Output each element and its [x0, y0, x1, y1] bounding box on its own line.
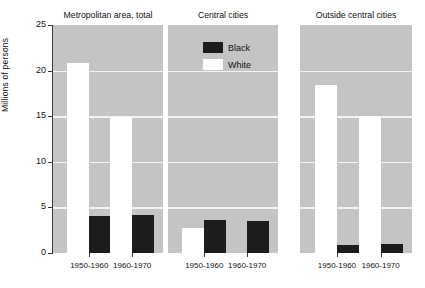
bar-black [337, 245, 359, 253]
y-axis-tick-label: 20 [16, 66, 46, 75]
y-axis-tick [48, 207, 52, 208]
legend: BlackWhite [203, 42, 251, 76]
gridline [168, 116, 278, 118]
bar-white [110, 117, 132, 253]
legend-swatch-white [203, 59, 223, 70]
gridline [300, 71, 412, 73]
y-axis-tick [48, 253, 52, 254]
bar-black [204, 220, 226, 253]
x-axis-tick-label: 1960-1970 [355, 261, 407, 270]
x-axis-tick [132, 253, 133, 257]
y-axis-tick-label: 15 [16, 111, 46, 120]
y-axis-tick [48, 25, 52, 26]
x-axis-tick [381, 253, 382, 257]
chart-panel: Metropolitan area, total [53, 25, 163, 253]
gridline [168, 207, 278, 209]
y-axis-tick [48, 71, 52, 72]
legend-item: White [203, 59, 251, 70]
panel-title: Central cities [168, 10, 278, 20]
y-axis-tick-label: 10 [16, 157, 46, 166]
y-axis-title: Millions of persons [0, 98, 10, 112]
x-axis-tick [89, 253, 90, 257]
x-axis-tick-label: 1960-1970 [221, 261, 273, 270]
x-axis-tick [337, 253, 338, 257]
legend-item: Black [203, 42, 251, 53]
y-axis-tick-label: 0 [16, 248, 46, 257]
y-axis-tick [48, 116, 52, 117]
bar-black [89, 216, 111, 253]
y-axis-tick-label: 5 [16, 202, 46, 211]
legend-swatch-black [203, 42, 223, 53]
bar-white [359, 116, 381, 253]
bar-white [315, 85, 337, 253]
y-axis-tick-label: 25 [16, 20, 46, 29]
x-axis-tick [247, 253, 248, 257]
y-axis-tick [48, 162, 52, 163]
bar-black [132, 215, 154, 253]
chart-panel: Outside central cities [300, 25, 412, 253]
bar-black [381, 244, 403, 253]
x-axis-tick [204, 253, 205, 257]
legend-label: White [228, 60, 251, 70]
bar-black [247, 221, 269, 253]
panel-title: Outside central cities [300, 10, 412, 20]
bar-white [67, 63, 89, 253]
bar-white [182, 228, 204, 253]
legend-label: Black [228, 43, 250, 53]
x-axis-tick-label: 1960-1970 [106, 261, 158, 270]
bar-chart: Millions of persons 2520151050 Metropoli… [0, 0, 425, 288]
panel-title: Metropolitan area, total [53, 10, 163, 20]
gridline [168, 162, 278, 164]
